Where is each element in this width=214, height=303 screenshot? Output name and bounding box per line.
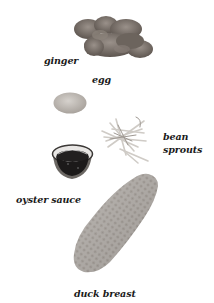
duck-breast-image	[70, 170, 162, 276]
ginger-label: ginger	[44, 55, 78, 66]
bean-sprouts-image	[98, 111, 154, 165]
bean-sprouts-label-line2: sprouts	[163, 144, 202, 155]
bean-sprouts-label-line1: bean	[163, 131, 188, 142]
duck-breast-label: duck breast	[74, 288, 136, 299]
egg-label: egg	[92, 74, 111, 85]
ginger-image	[70, 13, 156, 61]
egg-image	[52, 91, 88, 115]
